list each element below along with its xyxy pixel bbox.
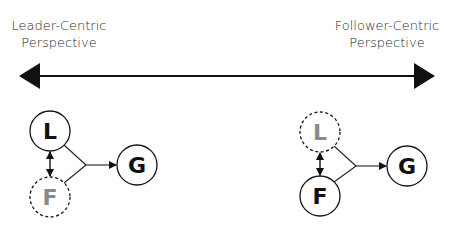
follower-node: F [300, 176, 340, 216]
leader-node: L [300, 112, 340, 152]
leader-letter: L [313, 120, 327, 145]
leader-letter: L [43, 119, 57, 144]
leader-centric-diagram: L F G [30, 111, 157, 217]
goal-letter: G [398, 154, 416, 179]
follower-to-junction-line [64, 165, 86, 183]
goal-letter: G [128, 153, 146, 178]
goal-node: G [387, 146, 427, 186]
follower-letter: F [312, 184, 327, 209]
leader-to-junction-line [334, 146, 356, 166]
left-arrowhead-icon [19, 63, 40, 89]
follower-to-junction-line [334, 166, 356, 182]
diagram-canvas: L F G L F G [0, 0, 454, 231]
follower-letter: F [42, 185, 57, 210]
right-arrowhead-icon [414, 63, 435, 89]
leader-node: L [30, 111, 70, 151]
leader-to-junction-line [64, 145, 86, 165]
goal-node: G [117, 145, 157, 185]
follower-node: F [30, 177, 70, 217]
spectrum-arrow [19, 63, 435, 89]
follower-centric-diagram: L F G [300, 112, 427, 216]
